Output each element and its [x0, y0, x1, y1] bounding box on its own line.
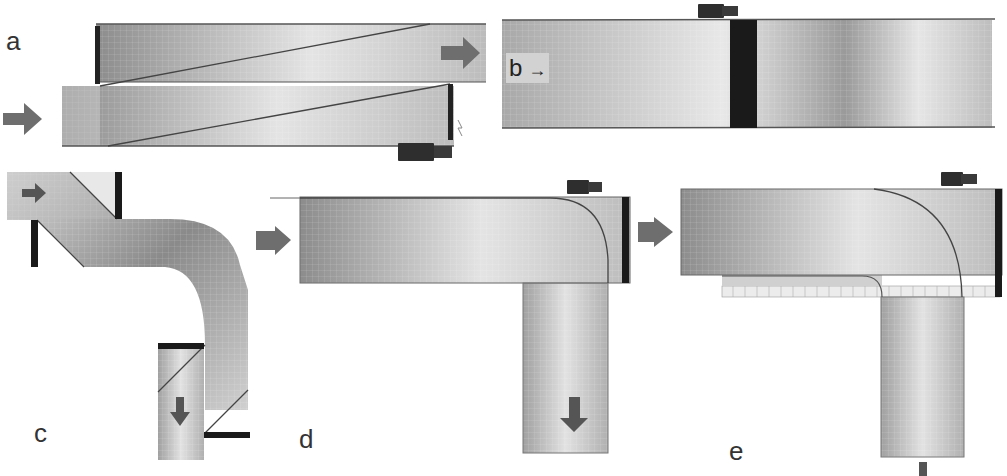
- panel-label-b: b→: [506, 53, 549, 83]
- panel-c: [7, 172, 250, 460]
- flow-arrow-down-icon: [919, 462, 927, 476]
- flow-arrow-in-icon: [256, 226, 291, 255]
- panel-label-d: d: [299, 426, 313, 452]
- flow-arrow-in-icon: [638, 217, 673, 247]
- transducer-icon: [941, 172, 977, 186]
- panel-label-a: a: [6, 28, 20, 54]
- signal-icon: [458, 120, 462, 136]
- panel-e: [622, 172, 1002, 476]
- panel-d: [256, 180, 630, 453]
- panel-b-text: b: [509, 54, 522, 81]
- upper-band: [95, 26, 100, 84]
- transducer-icon: [567, 180, 602, 194]
- panel-a: [3, 24, 486, 161]
- transducer-icon: [698, 4, 738, 18]
- panel-label-c: c: [34, 420, 47, 446]
- grid-liner: [722, 286, 1000, 297]
- panel-b: [502, 4, 995, 128]
- panel-label-e: e: [729, 438, 743, 464]
- diagram-canvas: [0, 0, 1007, 476]
- panel-b-arrow-icon: →: [528, 60, 546, 80]
- flow-arrow-in-icon: [3, 103, 42, 135]
- clamp-band: [730, 20, 757, 128]
